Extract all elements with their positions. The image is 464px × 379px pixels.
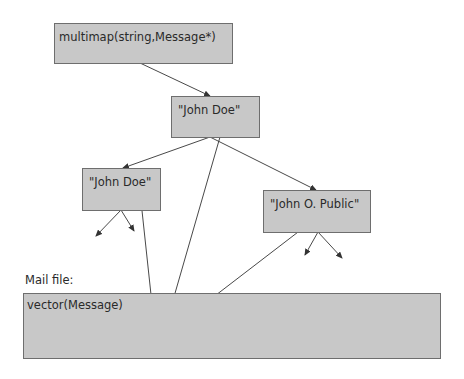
arrow-john-doe-root-to-john-o-public [210, 137, 316, 190]
arrow-john-o-public-to-child-left [305, 232, 318, 255]
john-doe-left-box: "John Doe" [82, 168, 161, 211]
arrow-john-o-public-to-child-right [318, 232, 342, 258]
mail-file-label: Mail file: [25, 273, 73, 287]
john-doe-root-box: "John Doe" [171, 96, 260, 138]
vector-label: vector(Message) [27, 298, 123, 312]
vector-box: vector(Message) [23, 293, 441, 359]
john-o-public-box: "John O. Public" [263, 190, 371, 233]
arrow-john-doe-root-to-john-doe-left [123, 137, 210, 168]
arrow-john-doe-left-to-child-left [96, 210, 121, 236]
multimap-box: multimap(string,Message*) [54, 23, 233, 64]
multimap-label: multimap(string,Message*) [59, 30, 216, 44]
arrow-john-doe-left-to-child-right [121, 210, 134, 231]
john-o-public-label: "John O. Public" [270, 197, 359, 211]
john-doe-root-label: "John Doe" [178, 103, 240, 117]
john-doe-left-label: "John Doe" [89, 175, 151, 189]
arrow-multimap-to-john-doe-root [140, 63, 210, 96]
